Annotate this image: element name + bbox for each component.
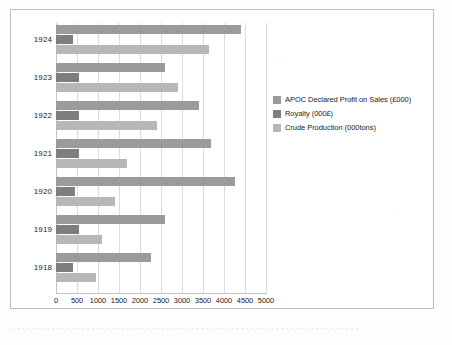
x-axis-line <box>56 293 267 294</box>
bar-1918-royalty <box>56 263 73 272</box>
gridline-4000 <box>224 23 225 293</box>
chart-legend: APOC Declared Profit on Sales (£000) Roy… <box>273 94 429 136</box>
bar-1924-crude <box>56 45 209 54</box>
x-tick-3500: 3500 <box>195 296 211 305</box>
legend-item-crude: Crude Production (000tons) <box>273 122 429 133</box>
x-tick-5000: 5000 <box>258 296 274 305</box>
bar-1921-profit <box>56 139 211 148</box>
x-tick-0: 0 <box>54 296 58 305</box>
bar-1920-profit <box>56 177 235 186</box>
x-tick-4500: 4500 <box>237 296 253 305</box>
bar-1918-crude <box>56 273 96 282</box>
x-tick-1500: 1500 <box>111 296 127 305</box>
legend-swatch-icon-crude <box>273 124 281 132</box>
scanned-page: 1924 1923 1922 1921 1920 1919 1918 0 500… <box>0 0 452 345</box>
bar-1922-profit <box>56 101 199 110</box>
bar-1921-royalty <box>56 149 79 158</box>
bar-1924-royalty <box>56 35 73 44</box>
x-tick-500: 500 <box>71 296 83 305</box>
legend-item-royalty: Royalty (000£) <box>273 108 429 119</box>
gridline-3500 <box>203 23 204 293</box>
legend-swatch-icon-profit <box>273 96 281 104</box>
y-label-1923: 1923 <box>12 73 52 82</box>
x-tick-2000: 2000 <box>132 296 148 305</box>
bar-1921-crude <box>56 159 127 168</box>
bar-1922-royalty <box>56 111 79 120</box>
bar-1919-royalty <box>56 225 79 234</box>
bar-1918-profit <box>56 253 151 262</box>
y-label-1920: 1920 <box>12 187 52 196</box>
legend-swatch-icon-royalty <box>273 110 281 118</box>
bar-1919-profit <box>56 215 165 224</box>
legend-item-profit: APOC Declared Profit on Sales (£000) <box>273 94 429 105</box>
x-tick-1000: 1000 <box>90 296 106 305</box>
bar-1920-crude <box>56 197 115 206</box>
gridline-3000 <box>182 23 183 293</box>
caption-text: · · · · · · · · · · · · · · · · · · · · … <box>12 327 440 333</box>
x-tick-2500: 2500 <box>153 296 169 305</box>
bar-1924-profit <box>56 25 241 34</box>
legend-label-profit: APOC Declared Profit on Sales (£000) <box>285 95 411 104</box>
gridline-4500 <box>245 23 246 293</box>
x-axis-labels: 0 500 1000 1500 2000 2500 3000 3500 4000… <box>56 296 266 310</box>
bar-1923-crude <box>56 83 178 92</box>
x-tick-4000: 4000 <box>216 296 232 305</box>
y-label-1921: 1921 <box>12 149 52 158</box>
caption-strip: · · · · · · · · · · · · · · · · · · · · … <box>12 327 440 341</box>
bar-1923-profit <box>56 63 165 72</box>
legend-label-crude: Crude Production (000tons) <box>285 123 376 132</box>
bar-1920-royalty <box>56 187 75 196</box>
bar-1919-crude <box>56 235 102 244</box>
x-tick-3000: 3000 <box>174 296 190 305</box>
y-label-1922: 1922 <box>12 111 52 120</box>
plot-area <box>56 23 266 293</box>
chart-frame: 1924 1923 1922 1921 1920 1919 1918 0 500… <box>10 9 434 309</box>
y-label-1918: 1918 <box>12 263 52 272</box>
gridline-5000 <box>266 23 267 293</box>
legend-label-royalty: Royalty (000£) <box>285 109 333 118</box>
y-label-1919: 1919 <box>12 225 52 234</box>
bar-1922-crude <box>56 121 157 130</box>
y-axis-labels: 1924 1923 1922 1921 1920 1919 1918 <box>11 23 52 293</box>
y-label-1924: 1924 <box>12 35 52 44</box>
bar-1923-royalty <box>56 73 79 82</box>
